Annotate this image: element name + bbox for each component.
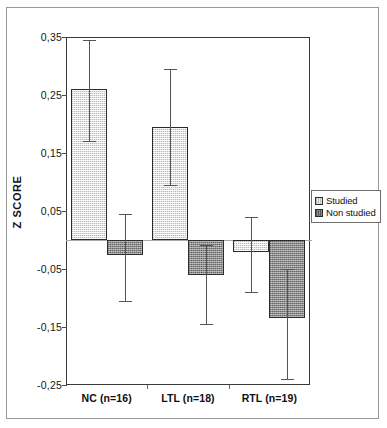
legend-item-non-studied: Non studied bbox=[315, 207, 377, 218]
y-tick-label: 0,35 bbox=[41, 31, 62, 43]
error-bar-cap-lower bbox=[83, 141, 96, 142]
y-tick-label: -0,05 bbox=[37, 263, 62, 275]
legend-label-non-studied: Non studied bbox=[326, 207, 376, 218]
y-tick-group: 0,05 bbox=[18, 205, 62, 217]
error-bar-cap-upper bbox=[164, 69, 177, 70]
y-tick-mark bbox=[62, 269, 67, 270]
y-tick-group: -0,15 bbox=[18, 321, 62, 333]
y-tick-mark bbox=[62, 211, 67, 212]
y-tick-mark bbox=[62, 37, 67, 38]
y-tick-group: 0,35 bbox=[18, 31, 62, 43]
y-tick-mark bbox=[62, 95, 67, 96]
figure-root: 0,350,250,150,05-0,05-0,15-0,25 Z SCORE … bbox=[0, 0, 387, 428]
x-tick-mark bbox=[229, 385, 230, 389]
error-bar-cap-lower bbox=[245, 292, 258, 293]
y-tick-group: -0,05 bbox=[18, 263, 62, 275]
y-tick-label: -0,25 bbox=[37, 379, 62, 391]
y-tick-mark bbox=[62, 327, 67, 328]
error-bar-cap-lower bbox=[119, 301, 132, 302]
error-bar-stem bbox=[125, 214, 126, 301]
legend-label-studied: Studied bbox=[326, 195, 358, 206]
error-bar-stem bbox=[206, 245, 207, 324]
error-bar-cap-upper bbox=[83, 40, 96, 41]
error-bar-cap-lower bbox=[164, 185, 177, 186]
y-tick-group: -0,25 bbox=[18, 379, 62, 391]
error-bar-stem bbox=[89, 40, 90, 142]
error-bar-cap-upper bbox=[119, 214, 132, 215]
y-tick-label: 0,25 bbox=[41, 89, 62, 101]
x-tick-label: RTL (n=19) bbox=[219, 392, 319, 404]
y-tick-label: 0,05 bbox=[41, 205, 62, 217]
error-bar-stem bbox=[251, 217, 252, 292]
error-bar-cap-upper bbox=[200, 245, 213, 246]
error-bar-cap-lower bbox=[281, 379, 294, 380]
x-tick-mark bbox=[147, 385, 148, 389]
y-tick-mark bbox=[62, 153, 67, 154]
y-tick-label: 0,15 bbox=[41, 147, 62, 159]
y-tick-group: 0,15 bbox=[18, 147, 62, 159]
legend-swatch-non-studied-icon bbox=[315, 209, 323, 217]
legend-swatch-studied-icon bbox=[315, 197, 323, 205]
error-bar-cap-upper bbox=[245, 217, 258, 218]
error-bar-stem bbox=[170, 69, 171, 185]
error-bar-cap-lower bbox=[200, 324, 213, 325]
y-tick-mark bbox=[62, 385, 67, 386]
legend-item-studied: Studied bbox=[315, 195, 377, 206]
error-bar-cap-upper bbox=[281, 269, 294, 270]
y-tick-group: 0,25 bbox=[18, 89, 62, 101]
legend: Studied Non studied bbox=[311, 190, 381, 223]
error-bar-stem bbox=[287, 269, 288, 379]
y-axis-title: Z SCORE bbox=[11, 157, 23, 247]
y-tick-label: -0,15 bbox=[37, 321, 62, 333]
